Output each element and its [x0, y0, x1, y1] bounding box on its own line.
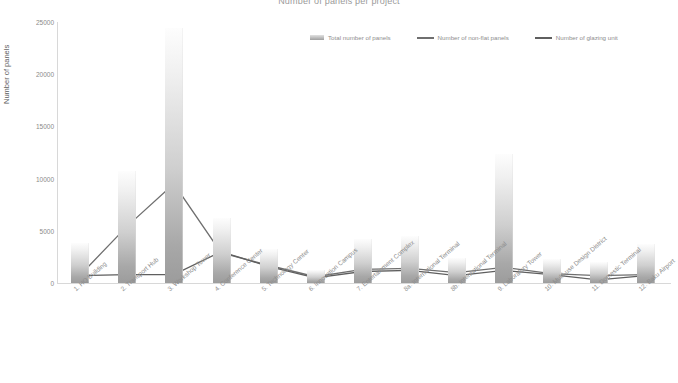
bar-edge — [135, 171, 136, 283]
y-tick-label: 0 — [14, 280, 54, 287]
bar — [118, 171, 135, 283]
chart-root: Number of panels per project Total numbe… — [0, 0, 678, 383]
x-axis-labels: 1. HQ Building2. Transport Hub3. Worksho… — [58, 287, 671, 383]
bar-edge — [512, 154, 513, 283]
plot-area — [58, 22, 671, 283]
y-axis-ticks: 0500010000150002000025000 — [10, 0, 54, 383]
bar-edge — [182, 28, 183, 283]
y-tick-label: 10000 — [14, 175, 54, 182]
y-tick-label: 15000 — [14, 123, 54, 130]
y-tick-label: 5000 — [14, 227, 54, 234]
y-tick-label: 20000 — [14, 71, 54, 78]
y-tick-label: 25000 — [14, 19, 54, 26]
bar — [495, 154, 512, 283]
chart-title: Number of panels per project — [0, 0, 678, 7]
bar — [165, 28, 182, 283]
